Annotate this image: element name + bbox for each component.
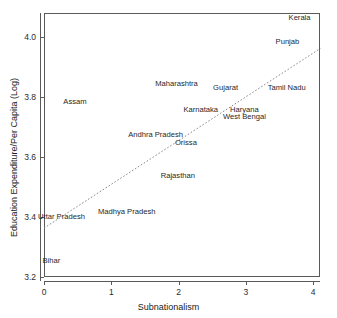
x-axis-tick-label: 2 [164,288,194,297]
data-point-label: Madhya Pradesh [98,208,155,216]
data-point-label: Gujarat [213,84,238,92]
data-point-label: Rajasthan [161,172,195,180]
data-point-label: West Bengal [223,113,266,121]
y-axis-tick-label: 3.6 [2,153,36,162]
y-axis-line [40,13,41,281]
data-point-label: Karnataka [183,106,218,114]
x-axis-line [44,281,320,282]
data-point-label: Punjab [276,38,300,46]
x-axis-title: Subnationalism [0,303,337,312]
data-point-label: Assam [63,98,86,106]
data-point-label: Bihar [43,257,61,265]
y-axis-tick-label: 3.2 [2,273,36,282]
y-axis-tick-label: 3.8 [2,93,36,102]
data-point-label: Orissa [175,139,197,147]
scatter-plot-figure: 3.23.43.63.84.001234 KeralaPunjabMaharas… [0,0,337,318]
y-axis-title: Education Expenditure/Per Capita (Log) [10,78,19,238]
data-point-label: Maharashtra [155,80,198,88]
data-point-label: Kerala [289,14,311,22]
x-axis-tick-label: 0 [29,288,59,297]
y-axis-tick-label: 4.0 [2,33,36,42]
x-axis-tick-label: 1 [96,288,126,297]
data-point-label: Uttar Pradesh [38,213,85,221]
x-axis-tick-label: 3 [231,288,261,297]
y-axis-tick-label: 3.4 [2,213,36,222]
x-axis-tick-label: 4 [298,288,328,297]
data-point-label: Tamil Nadu [268,84,306,92]
